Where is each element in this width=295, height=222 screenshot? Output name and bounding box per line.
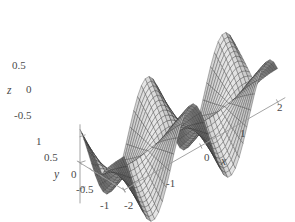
z-tick-0.5: 0.5 (12, 60, 26, 71)
x-tick--1: -1 (166, 178, 175, 189)
x-tick--2: -2 (124, 200, 133, 211)
y-tick-0: 0 (71, 169, 77, 180)
y-tick--0.5: -0.5 (76, 184, 93, 195)
z-tick--0.5: -0.5 (14, 110, 31, 121)
z-axis-title: z (7, 85, 11, 96)
x-tick-2: 2 (277, 102, 283, 113)
y-axis-title: y (54, 169, 59, 180)
y-tick--1: -1 (100, 200, 109, 211)
y-tick-0.5: 0.5 (44, 152, 58, 163)
surface-plot-figure: 0.5 0 -0.5 z 1 0.5 0 -0.5 -1 y -2 -1 0 1… (0, 0, 295, 222)
x-tick-1: 1 (240, 128, 246, 139)
plot-canvas (0, 0, 295, 222)
surface-mesh (80, 32, 278, 221)
x-axis-title: x (221, 156, 226, 167)
z-tick-0: 0 (26, 84, 32, 95)
x-tick-0: 0 (204, 152, 210, 163)
y-tick-1: 1 (36, 136, 42, 147)
